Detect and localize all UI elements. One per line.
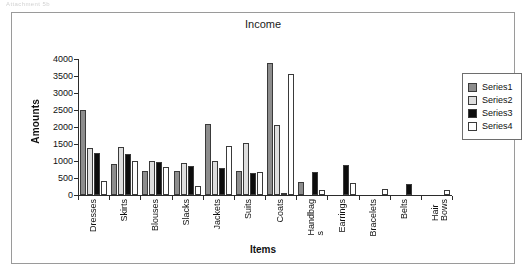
y-axis-tick-label: 2000 bbox=[53, 122, 73, 132]
x-axis-category-label: Belts bbox=[400, 199, 409, 219]
legend-swatch bbox=[468, 96, 477, 105]
x-axis-category-label: Earrings bbox=[338, 199, 347, 233]
y-axis-tick-mark bbox=[74, 127, 79, 128]
x-axis-title: Items bbox=[12, 244, 514, 255]
x-axis-tick-mark bbox=[421, 196, 422, 200]
legend-item[interactable]: Series1 bbox=[468, 82, 517, 92]
x-axis-tick-mark bbox=[296, 196, 297, 200]
x-axis-tick-mark bbox=[359, 196, 360, 200]
y-axis-tick-mark bbox=[74, 178, 79, 179]
x-axis-category-label: Skirts bbox=[120, 199, 129, 222]
bar bbox=[132, 161, 138, 195]
legend-item[interactable]: Series4 bbox=[468, 121, 517, 131]
y-axis-tick-mark bbox=[74, 59, 79, 60]
y-axis-tick-label: 1500 bbox=[53, 139, 73, 149]
bar bbox=[80, 110, 86, 195]
x-axis-category-label-line: Suits bbox=[244, 199, 253, 219]
legend-swatch bbox=[468, 109, 477, 118]
bar bbox=[250, 173, 256, 195]
bar bbox=[205, 124, 211, 195]
bar bbox=[149, 161, 155, 195]
x-axis-category-label-line: Handbag bbox=[307, 199, 316, 236]
x-axis-category-label: Handbags bbox=[307, 199, 326, 236]
bar-group bbox=[267, 59, 295, 195]
x-axis-category-label-line: Bows bbox=[441, 199, 450, 221]
y-axis-tick-label: 3500 bbox=[53, 71, 73, 81]
bar bbox=[350, 183, 356, 195]
x-axis-category-label: Coats bbox=[276, 199, 285, 223]
x-axis-category-label-line: Belts bbox=[400, 199, 409, 219]
x-axis-category-label: Slacks bbox=[182, 199, 191, 226]
bar bbox=[174, 171, 180, 195]
legend-item[interactable]: Series2 bbox=[468, 95, 517, 105]
bar bbox=[382, 189, 388, 195]
x-axis-category-label-line: Slacks bbox=[182, 199, 191, 226]
bar bbox=[343, 165, 349, 195]
bar bbox=[212, 161, 218, 195]
x-axis-category-label: Dresses bbox=[89, 199, 98, 232]
bar bbox=[267, 63, 273, 195]
bar bbox=[181, 163, 187, 195]
bar bbox=[257, 172, 263, 195]
bar bbox=[444, 190, 450, 195]
bar bbox=[274, 125, 280, 195]
bar-group bbox=[392, 59, 420, 195]
x-axis-category-label-line: Coats bbox=[276, 199, 285, 223]
bar bbox=[298, 182, 304, 195]
bar-group bbox=[361, 59, 389, 195]
chart-title: Income bbox=[12, 18, 514, 30]
x-axis-tick-mark bbox=[265, 196, 266, 200]
x-axis-category-label-line: Earrings bbox=[338, 199, 347, 233]
legend-label: Series2 bbox=[482, 95, 513, 105]
bar-group bbox=[205, 59, 233, 195]
y-axis-tick-mark bbox=[74, 93, 79, 94]
bar bbox=[219, 168, 225, 195]
y-axis-tick-label: 500 bbox=[58, 173, 73, 183]
x-axis-category-label-line: s bbox=[316, 199, 325, 236]
bar bbox=[243, 143, 249, 195]
y-axis-tick-label: 4000 bbox=[53, 54, 73, 64]
y-axis-tick-mark bbox=[74, 161, 79, 162]
x-axis-category-label-line: Blouses bbox=[151, 199, 160, 231]
x-axis-tick-mark bbox=[234, 196, 235, 200]
bar bbox=[288, 74, 294, 195]
bar bbox=[312, 172, 318, 195]
x-axis-tick-mark bbox=[452, 196, 453, 200]
x-axis-tick-mark bbox=[172, 196, 173, 200]
x-axis-tick-mark bbox=[327, 196, 328, 200]
x-axis-category-label: Blouses bbox=[151, 199, 160, 231]
x-axis-category-label: Bracelets bbox=[369, 199, 378, 237]
y-axis-title: Amounts bbox=[30, 99, 41, 144]
bar-group bbox=[423, 59, 451, 195]
bar bbox=[236, 171, 242, 195]
bar bbox=[163, 167, 169, 195]
bar bbox=[118, 147, 124, 195]
bar bbox=[226, 146, 232, 195]
bar bbox=[281, 193, 287, 195]
bar-group bbox=[174, 59, 202, 195]
bar bbox=[111, 164, 117, 195]
bar bbox=[142, 171, 148, 195]
x-axis-category-label-line: Dresses bbox=[89, 199, 98, 232]
legend-label: Series3 bbox=[482, 108, 513, 118]
x-axis-tick-mark bbox=[109, 196, 110, 200]
bar bbox=[195, 186, 201, 195]
bar bbox=[406, 184, 412, 195]
x-axis-category-label: HairBows bbox=[431, 199, 450, 221]
bar-group bbox=[80, 59, 108, 195]
plot-area: 05001000150020002500300035004000 bbox=[78, 59, 452, 196]
x-axis-category-label: Suits bbox=[244, 199, 253, 219]
bar bbox=[94, 153, 100, 195]
document-header-text: Attachment 5b bbox=[6, 1, 50, 7]
x-axis-category-label-line: Jackets bbox=[213, 199, 222, 230]
y-axis-tick-label: 0 bbox=[68, 190, 73, 200]
x-axis-tick-mark bbox=[390, 196, 391, 200]
bar-group bbox=[298, 59, 326, 195]
x-axis-tick-mark bbox=[78, 196, 79, 200]
bar bbox=[101, 181, 107, 195]
bar bbox=[125, 154, 131, 195]
legend-item[interactable]: Series3 bbox=[468, 108, 517, 118]
x-axis-category-label: Jackets bbox=[213, 199, 222, 230]
bar bbox=[156, 162, 162, 195]
chart-frame: Income Amounts 0500100015002000250030003… bbox=[11, 12, 515, 264]
